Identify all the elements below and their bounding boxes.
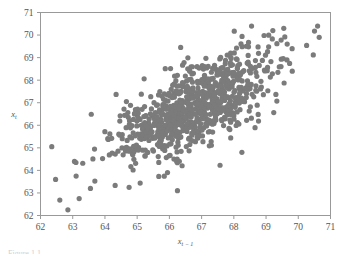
- data-point: [190, 64, 195, 69]
- y-tick-label-70: 70: [24, 30, 34, 40]
- figure-caption-sliver: Figure 1.1: [8, 249, 188, 254]
- data-point: [256, 51, 261, 56]
- data-point: [131, 157, 136, 162]
- data-point: [226, 126, 231, 131]
- y-axis-title: xt: [10, 109, 17, 120]
- data-point: [148, 94, 153, 99]
- data-point: [143, 114, 148, 119]
- data-point: [261, 33, 266, 38]
- data-point: [221, 65, 226, 70]
- data-point: [239, 34, 244, 39]
- data-point: [163, 66, 168, 71]
- data-point: [270, 36, 275, 41]
- data-point: [210, 122, 215, 127]
- data-point: [161, 102, 166, 107]
- data-point: [124, 99, 129, 104]
- data-point: [270, 28, 275, 33]
- data-point: [178, 45, 183, 50]
- data-point: [255, 44, 260, 49]
- x-tick-label-69: 69: [261, 222, 271, 232]
- data-point: [225, 81, 230, 86]
- data-point: [162, 174, 167, 179]
- data-point: [53, 177, 58, 182]
- data-point: [174, 88, 179, 93]
- data-point: [236, 70, 241, 75]
- data-point: [165, 98, 170, 103]
- data-point: [273, 92, 278, 97]
- data-point: [138, 180, 143, 185]
- data-point: [184, 129, 189, 134]
- data-point: [117, 119, 122, 124]
- data-point: [181, 60, 186, 65]
- data-point: [132, 144, 137, 149]
- scatter-plot-svg: 62636465666768697071 6263646566676869707…: [0, 0, 352, 254]
- data-point: [142, 76, 147, 81]
- y-tick-label-66: 66: [24, 121, 34, 131]
- data-point: [217, 56, 222, 61]
- data-point: [207, 143, 212, 148]
- data-point: [151, 123, 156, 128]
- data-point: [254, 89, 259, 94]
- data-point: [253, 58, 258, 63]
- data-point: [156, 174, 161, 179]
- data-point: [92, 178, 97, 183]
- figure-container: 62636465666768697071 6263646566676869707…: [0, 0, 352, 254]
- data-point: [185, 55, 190, 60]
- data-point: [197, 125, 202, 130]
- data-point: [177, 106, 182, 111]
- data-point: [110, 151, 115, 156]
- data-point: [232, 50, 237, 55]
- x-tick-label-64: 64: [100, 222, 110, 232]
- data-point: [317, 35, 322, 40]
- data-point: [166, 153, 171, 158]
- data-point: [202, 64, 207, 69]
- data-point: [279, 38, 284, 43]
- data-point: [127, 185, 132, 190]
- data-point: [183, 109, 188, 114]
- data-point: [252, 125, 257, 130]
- data-point: [244, 118, 249, 123]
- data-point: [167, 141, 172, 146]
- data-point: [184, 94, 189, 99]
- data-point: [217, 163, 222, 168]
- data-point: [80, 161, 85, 166]
- data-point: [100, 156, 105, 161]
- data-point: [151, 100, 156, 105]
- data-point: [260, 58, 265, 63]
- data-point: [282, 80, 287, 85]
- data-point: [162, 148, 167, 153]
- data-point: [235, 57, 240, 62]
- data-point: [190, 95, 195, 100]
- data-point: [201, 99, 206, 104]
- data-point: [186, 77, 191, 82]
- data-point: [315, 23, 320, 28]
- data-point: [88, 186, 93, 191]
- data-point: [225, 52, 230, 57]
- data-point: [128, 103, 133, 108]
- data-point: [213, 114, 218, 119]
- data-point: [304, 43, 309, 48]
- data-point: [265, 49, 270, 54]
- data-point: [195, 81, 200, 86]
- data-point: [118, 113, 123, 118]
- data-point: [203, 56, 208, 61]
- y-tick-label-71: 71: [24, 8, 34, 18]
- data-point: [145, 150, 150, 155]
- data-point: [194, 119, 199, 124]
- data-point: [244, 86, 249, 91]
- data-point: [231, 70, 236, 75]
- data-point: [274, 98, 279, 103]
- data-point: [160, 94, 165, 99]
- data-point: [170, 95, 175, 100]
- data-point: [248, 70, 253, 75]
- data-point: [174, 83, 179, 88]
- data-point: [179, 100, 184, 105]
- data-point: [187, 69, 192, 74]
- x-tick-label-67: 67: [197, 222, 207, 232]
- y-tick-label-62: 62: [24, 211, 34, 221]
- data-point: [175, 156, 180, 161]
- data-point: [290, 69, 295, 74]
- data-point: [281, 26, 286, 31]
- data-point: [184, 121, 189, 126]
- data-point: [205, 76, 210, 81]
